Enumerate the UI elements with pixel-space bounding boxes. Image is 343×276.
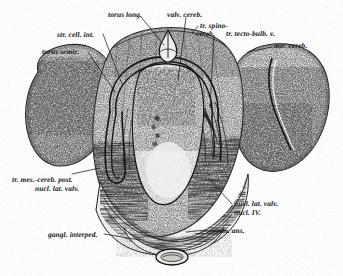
label-aur-cereb: aur. cereb. [274, 42, 307, 51]
label-torus-long: torus long. [108, 11, 142, 20]
label-gangl-interped: gangl. interped. [48, 231, 97, 240]
label-valv-cereb: valv. cereb. [167, 11, 202, 20]
label-nucl-lat-valv-left: nucl. lat. valv. [35, 185, 79, 194]
label-torus-semic: torus semic. [42, 48, 80, 57]
label-nucl-iv: nucl. IV. [234, 209, 261, 218]
label-tr-tecto-bulb-v: tr. tecto-bulb. v. [226, 30, 275, 39]
label-str-cell-int: str. cell. int. [57, 31, 94, 40]
label-tr-spino-cereb-line2: cereb. [196, 30, 215, 39]
label-comm-ans: comm. ans. [209, 227, 245, 236]
anatomical-figure: torus long. valv. cereb. tr. spino- cere… [0, 0, 343, 276]
